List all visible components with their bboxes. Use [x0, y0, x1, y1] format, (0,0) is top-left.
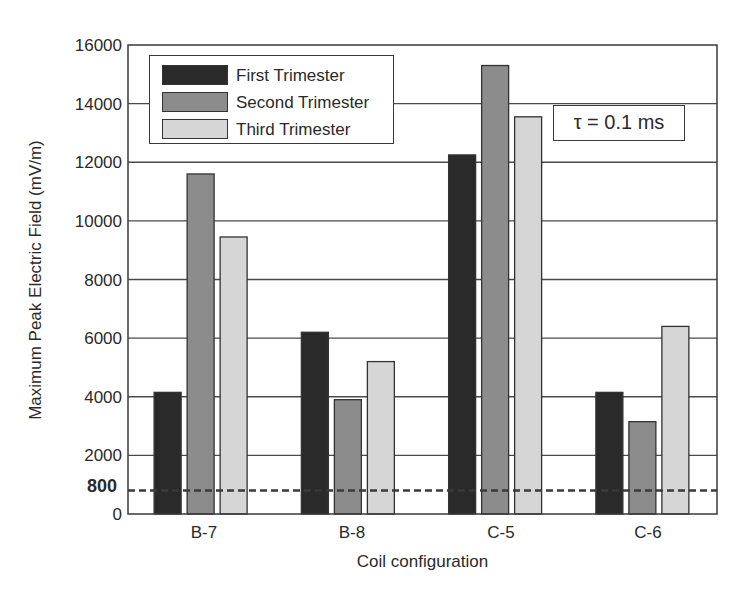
legend-swatch-second — [162, 92, 228, 112]
bar-b-7-2 — [187, 174, 214, 514]
bar-c-5-1 — [449, 155, 476, 514]
y-tick-12000: 12000 — [52, 154, 122, 171]
y-tick-8000: 8000 — [52, 272, 122, 289]
legend-swatch-third — [162, 119, 228, 139]
bar-b-8-2 — [334, 400, 361, 514]
bar-b-7-3 — [220, 237, 247, 514]
x-category-c5: C-5 — [461, 524, 541, 541]
bar-c-5-3 — [515, 117, 542, 514]
bar-b-8-1 — [301, 332, 328, 514]
y-axis-label: Maximum Peak Electric Field (mV/m) — [26, 90, 46, 470]
x-category-b8: B-8 — [312, 524, 392, 541]
y-tick-16000: 16000 — [52, 37, 122, 54]
threshold-tick-label: 800 — [47, 477, 117, 495]
legend: First Trimester Second Trimester Third T… — [149, 55, 394, 144]
x-category-b7: B-7 — [164, 524, 244, 541]
x-category-c6: C-6 — [608, 524, 688, 541]
legend-swatch-first — [162, 65, 228, 85]
legend-item-second: Second Trimester — [162, 92, 392, 114]
y-tick-14000: 14000 — [52, 96, 122, 113]
pulse-duration-annotation: τ = 0.1 ms — [553, 105, 685, 141]
legend-item-third: Third Trimester — [162, 119, 392, 141]
bar-c-6-2 — [629, 422, 656, 514]
y-tick-6000: 6000 — [52, 330, 122, 347]
x-axis-label: Coil configuration — [128, 552, 717, 572]
legend-label-third: Third Trimester — [236, 120, 350, 140]
legend-item-first: First Trimester — [162, 65, 392, 87]
bar-b-7-1 — [154, 392, 181, 514]
bar-c-5-2 — [482, 66, 509, 514]
legend-label-second: Second Trimester — [236, 93, 369, 113]
bar-c-6-3 — [662, 326, 689, 514]
bar-chart: 0 2000 4000 6000 8000 10000 12000 14000 … — [0, 0, 753, 597]
y-tick-2000: 2000 — [52, 447, 122, 464]
y-tick-10000: 10000 — [52, 213, 122, 230]
y-tick-4000: 4000 — [52, 389, 122, 406]
legend-label-first: First Trimester — [236, 66, 345, 86]
y-tick-0: 0 — [52, 506, 122, 523]
bar-c-6-1 — [596, 392, 623, 514]
